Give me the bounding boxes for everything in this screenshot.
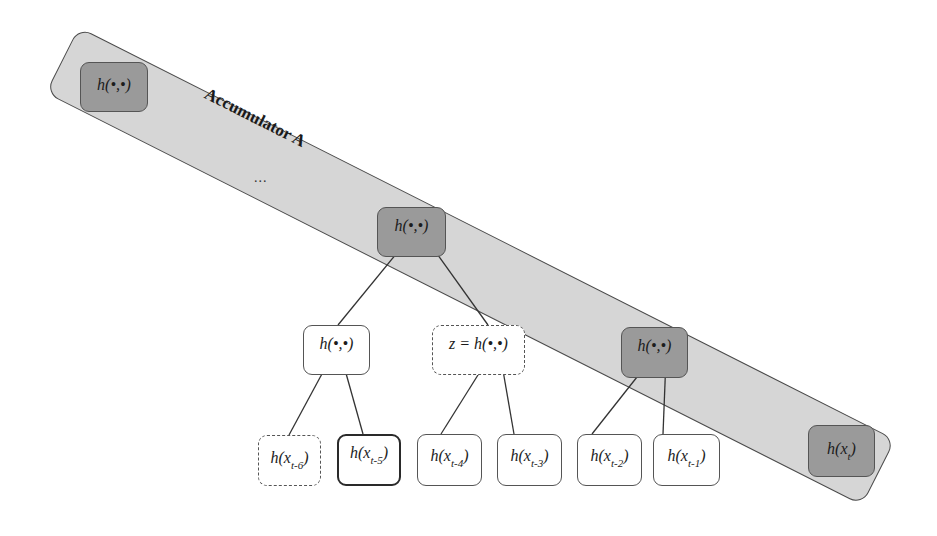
accumulator-node-right: h(•,•) [621,327,688,378]
node-label: h(•,•) [320,335,354,353]
leaf-node-t-6: h(xt-6) [258,435,321,486]
node-label: h(xt-3) [511,447,549,467]
mid-node-left: h(•,•) [303,325,370,375]
leaf-node-t-2: h(xt-2) [577,434,642,486]
node-label: h(•,•) [97,76,131,94]
accumulator-node-top: h(•,•) [377,207,446,257]
accumulator-node-last: h(xt) [808,425,875,477]
node-label: h(•,•) [638,337,672,355]
diagram-canvas: Accumulator A ... h(•,•) h(•,•) h(•,•) h… [0,0,937,536]
accumulator-node-first: h(•,•) [80,62,148,112]
node-label: z = h(•,•) [449,335,508,353]
leaf-node-t-3: h(xt-3) [497,434,562,486]
mid-node-z: z = h(•,•) [432,325,525,375]
leaf-node-t-1: h(xt-1) [653,434,720,486]
node-label: h(xt) [827,440,856,460]
node-label: h(xt-1) [668,447,706,467]
leaf-node-t-4: h(xt-4) [417,434,482,486]
node-label: h(xt-6) [271,449,309,469]
leaf-node-t-5: h(xt-5) [337,434,401,486]
node-label: h(xt-4) [431,447,469,467]
node-label: h(xt-2) [591,447,629,467]
node-label: h(xt-5) [350,444,388,464]
node-label: h(•,•) [395,217,429,235]
